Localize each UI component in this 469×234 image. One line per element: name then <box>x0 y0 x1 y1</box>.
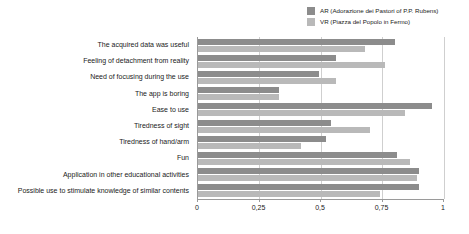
x-axis-tick <box>197 199 198 202</box>
x-axis-tick-label: 0,25 <box>244 204 274 211</box>
bar-rows <box>198 37 444 199</box>
x-axis-tick-label: 0 <box>182 204 212 211</box>
x-axis-tick <box>259 199 260 202</box>
bar-group <box>198 53 444 69</box>
bar-group <box>198 69 444 85</box>
bar-group <box>198 183 444 199</box>
bar-vr <box>198 78 336 84</box>
plot-area <box>197 37 444 199</box>
y-axis-label: Tiredness of sight <box>134 118 189 134</box>
x-axis-tick <box>382 199 383 202</box>
bar-ar <box>198 103 432 109</box>
bar-vr <box>198 46 365 52</box>
y-axis-label: Fun <box>177 150 189 166</box>
x-axis-tick-label: 0,75 <box>367 204 397 211</box>
bar-vr <box>198 94 279 100</box>
bar-ar <box>198 152 397 158</box>
bar-ar <box>198 168 419 174</box>
bar-ar <box>198 184 419 190</box>
bar-group <box>198 102 444 118</box>
bar-group <box>198 118 444 134</box>
bar-group <box>198 150 444 166</box>
y-axis-label: Possible use to stimulate knowledge of s… <box>18 183 189 199</box>
legend-label-vr: VR (Piazza del Popolo in Fermo) <box>320 18 410 26</box>
x-axis-tick-label: 0,5 <box>305 204 335 211</box>
legend-item-ar: AR (Adorazione dei Pastori of P.P. Ruben… <box>307 6 438 15</box>
bar-group <box>198 134 444 150</box>
y-axis-label: Application in other educational activit… <box>63 167 189 183</box>
y-axis-label: Feeling of detachment from reality <box>83 53 189 69</box>
bar-chart: AR (Adorazione dei Pastori of P.P. Ruben… <box>0 0 469 234</box>
bar-ar <box>198 55 336 61</box>
bar-ar <box>198 39 395 45</box>
y-axis-label: Need of focusing during the use <box>90 69 189 85</box>
legend-item-vr: VR (Piazza del Popolo in Fermo) <box>307 17 438 26</box>
y-axis-labels: The acquired data was usefulFeeling of d… <box>0 37 193 199</box>
y-axis-label: The app is boring <box>135 86 189 102</box>
bar-vr <box>198 191 380 197</box>
gridline-1 <box>444 37 445 199</box>
bar-vr <box>198 110 405 116</box>
chart-legend: AR (Adorazione dei Pastori of P.P. Ruben… <box>307 6 438 26</box>
x-axis-tick <box>320 199 321 202</box>
bar-ar <box>198 71 319 77</box>
bar-ar <box>198 120 331 126</box>
bar-group <box>198 167 444 183</box>
bar-vr <box>198 143 301 149</box>
legend-label-ar: AR (Adorazione dei Pastori of P.P. Ruben… <box>320 7 438 15</box>
legend-swatch-ar <box>307 7 315 15</box>
bar-group <box>198 37 444 53</box>
bar-vr <box>198 127 370 133</box>
y-axis-label: Tiredness of hand/arm <box>119 134 189 150</box>
legend-swatch-vr <box>307 18 315 26</box>
bar-vr <box>198 175 417 181</box>
y-axis-label: The acquired data was useful <box>98 37 189 53</box>
bar-vr <box>198 62 385 68</box>
bar-vr <box>198 159 410 165</box>
x-axis-tick-label: 1 <box>428 204 458 211</box>
bar-ar <box>198 136 326 142</box>
bar-group <box>198 86 444 102</box>
bar-ar <box>198 87 279 93</box>
y-axis-label: Ease to use <box>152 102 189 118</box>
x-axis-tick <box>443 199 444 202</box>
